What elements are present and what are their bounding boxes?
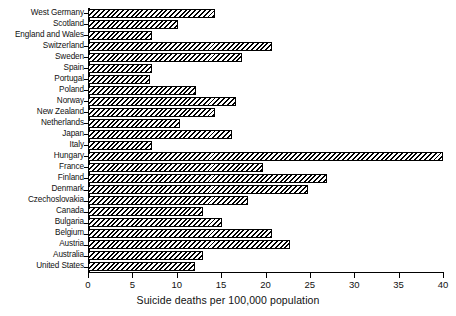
y-axis-label: Spain xyxy=(0,63,84,74)
bar-row xyxy=(88,206,443,217)
bar xyxy=(88,97,236,106)
bar-row xyxy=(88,118,443,129)
x-axis-tick-label: 35 xyxy=(393,278,404,292)
y-axis-tick xyxy=(84,178,88,179)
bar xyxy=(88,20,178,29)
y-axis-label: England and Wales xyxy=(0,30,84,41)
bar xyxy=(88,75,150,84)
y-axis-tick xyxy=(84,101,88,102)
bar xyxy=(88,163,263,172)
y-axis-label: Portugal xyxy=(0,74,84,85)
x-axis-tick-label: 40 xyxy=(438,278,449,292)
x-axis-tick-label: 10 xyxy=(171,278,182,292)
bar xyxy=(88,130,232,139)
bar-row xyxy=(88,41,443,52)
y-axis-tick xyxy=(84,145,88,146)
y-axis-label: Norway xyxy=(0,96,84,107)
bar-row xyxy=(88,52,443,63)
y-axis-label: Sweden xyxy=(0,52,84,63)
bar xyxy=(88,53,242,62)
bar xyxy=(88,185,308,194)
x-axis-tick-label: 5 xyxy=(130,278,135,292)
y-axis-label: Australia xyxy=(0,250,84,261)
bar xyxy=(88,42,272,51)
bar-row xyxy=(88,239,443,250)
y-axis-tick xyxy=(84,46,88,47)
y-axis-tick xyxy=(84,223,88,224)
y-axis-label: Netherlands xyxy=(0,118,84,129)
bar xyxy=(88,196,248,205)
y-axis-tick xyxy=(84,212,88,213)
y-axis-tick xyxy=(84,35,88,36)
bar xyxy=(88,64,152,73)
y-axis-tick xyxy=(84,57,88,58)
bar-row xyxy=(88,8,443,19)
y-axis-tick xyxy=(84,234,88,235)
bar-row xyxy=(88,261,443,272)
y-axis-tick xyxy=(84,123,88,124)
bar-row xyxy=(88,195,443,206)
y-axis-label: Denmark xyxy=(0,184,84,195)
y-axis-label: Czechoslovakia xyxy=(0,195,84,206)
y-axis-label: West Germany xyxy=(0,8,84,19)
x-axis-tick-label: 25 xyxy=(305,278,316,292)
bar-row xyxy=(88,184,443,195)
y-axis-label: Japan xyxy=(0,129,84,140)
bar xyxy=(88,152,443,161)
bar xyxy=(88,119,180,128)
y-axis-tick xyxy=(84,190,88,191)
bar xyxy=(88,240,290,249)
y-axis-tick xyxy=(84,112,88,113)
bar-row xyxy=(88,74,443,85)
bar-row xyxy=(88,151,443,162)
bar xyxy=(88,229,272,238)
x-axis-title: Suicide deaths per 100,000 population xyxy=(0,294,456,306)
y-axis-tick xyxy=(84,90,88,91)
bar-row xyxy=(88,107,443,118)
y-axis-label: New Zealand xyxy=(0,107,84,118)
y-axis-tick xyxy=(84,256,88,257)
bar-row xyxy=(88,129,443,140)
y-axis-label: France xyxy=(0,162,84,173)
y-axis-label: Canada xyxy=(0,206,84,217)
bar xyxy=(88,218,222,227)
x-axis-tick-label: 15 xyxy=(216,278,227,292)
y-axis-label: Finland xyxy=(0,173,84,184)
x-axis-tick-label: 0 xyxy=(85,278,90,292)
bar xyxy=(88,262,195,271)
bar xyxy=(88,207,203,216)
y-axis-tick xyxy=(84,134,88,135)
bar xyxy=(88,251,203,260)
x-axis-tick-label: 20 xyxy=(260,278,271,292)
plot-area xyxy=(88,8,443,272)
y-axis-label: Switzerland xyxy=(0,41,84,52)
y-axis-label: Austria xyxy=(0,239,84,250)
y-axis-tick xyxy=(84,13,88,14)
bar-row xyxy=(88,30,443,41)
y-axis-category-labels: West GermanyScotlandEngland and WalesSwi… xyxy=(0,8,84,272)
y-axis-label: Poland xyxy=(0,85,84,96)
x-axis-tick-labels: 0510152025303540 xyxy=(88,278,443,292)
bar xyxy=(88,31,152,40)
y-axis-tick xyxy=(84,156,88,157)
bar-row xyxy=(88,173,443,184)
y-axis-label: United States xyxy=(0,261,84,272)
bar-row xyxy=(88,140,443,151)
suicide-deaths-bar-chart: West GermanyScotlandEngland and WalesSwi… xyxy=(0,0,456,316)
bar xyxy=(88,108,215,117)
y-axis-label: Bulgaria xyxy=(0,217,84,228)
bar-rows xyxy=(88,8,443,272)
y-axis-label: Italy xyxy=(0,140,84,151)
bar-row xyxy=(88,217,443,228)
y-axis-tick xyxy=(84,68,88,69)
y-axis-tick xyxy=(84,245,88,246)
bar-row xyxy=(88,250,443,261)
y-axis-tick xyxy=(84,79,88,80)
y-axis-tick xyxy=(84,24,88,25)
bar-row xyxy=(88,96,443,107)
bar-row xyxy=(88,162,443,173)
bar xyxy=(88,86,196,95)
bar xyxy=(88,174,327,183)
y-axis-label: Scotland xyxy=(0,19,84,30)
y-axis-label: Belgium xyxy=(0,228,84,239)
